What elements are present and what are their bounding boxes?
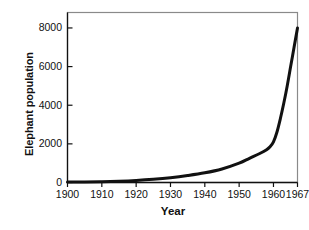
x-axis-tick-label: 1950 <box>227 189 250 200</box>
x-axis-tick-label: 1900 <box>56 189 79 200</box>
x-axis-tick-label: 1967 <box>286 189 309 200</box>
x-axis-tick-labels: 19001910192019301940195019601967 <box>0 0 309 230</box>
x-axis-tick-label: 1910 <box>90 189 113 200</box>
x-axis-tick-label: 1960 <box>262 189 285 200</box>
x-axis-tick-label: 1940 <box>193 189 216 200</box>
x-axis-tick-label: 1930 <box>159 189 182 200</box>
x-axis-tick-label: 1920 <box>124 189 147 200</box>
chart-figure: Elephant population Year 020004000600080… <box>0 0 309 230</box>
